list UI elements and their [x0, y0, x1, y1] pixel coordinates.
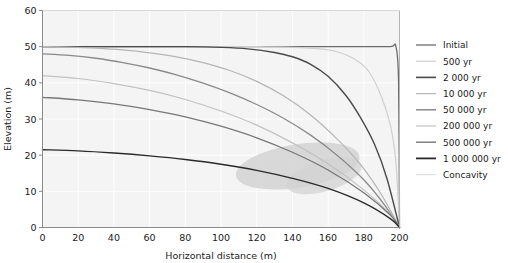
x-tick-200: 200 — [390, 232, 408, 243]
x-tick-80: 80 — [179, 232, 191, 243]
legend-label-7: 1 000 000 yr — [443, 154, 501, 164]
legend-label-5: 200 000 yr — [443, 121, 492, 131]
y-tick-labels: 0102030405060 — [24, 5, 42, 233]
x-tick-20: 20 — [72, 232, 84, 243]
x-tick-180: 180 — [355, 232, 373, 243]
chart-svg: 020406080100120140160180200 010203040506… — [0, 0, 508, 263]
legend-label-3: 10 000 yr — [443, 89, 487, 99]
x-tick-120: 120 — [248, 232, 266, 243]
legend-label-1: 500 yr — [443, 57, 472, 67]
y-tick-40: 40 — [24, 77, 36, 88]
y-tick-50: 50 — [24, 41, 36, 52]
legend-label-6: 500 000 yr — [443, 138, 492, 148]
y-axis-title: Elevation (m) — [2, 87, 13, 151]
y-tick-0: 0 — [30, 222, 36, 233]
x-tick-40: 40 — [108, 232, 120, 243]
legend-label-8: Concavity — [443, 170, 488, 180]
y-tick-10: 10 — [24, 186, 36, 197]
y-tick-30: 30 — [24, 114, 36, 125]
x-tick-0: 0 — [39, 232, 45, 243]
legend-label-2: 2 000 yr — [443, 73, 481, 83]
chart-figure: 020406080100120140160180200 010203040506… — [0, 0, 508, 263]
legend-label-4: 50 000 yr — [443, 105, 487, 115]
x-tick-60: 60 — [144, 232, 156, 243]
legend-label-0: Initial — [443, 40, 468, 50]
legend: Initial500 yr2 000 yr10 000 yr50 000 yr2… — [416, 40, 501, 180]
y-tick-60: 60 — [24, 5, 36, 16]
x-tick-100: 100 — [212, 232, 230, 243]
y-tick-20: 20 — [24, 150, 36, 161]
x-axis-title: Horizontal distance (m) — [165, 250, 276, 261]
x-tick-140: 140 — [283, 232, 301, 243]
x-tick-160: 160 — [319, 232, 337, 243]
x-tick-labels: 020406080100120140160180200 — [39, 232, 408, 243]
